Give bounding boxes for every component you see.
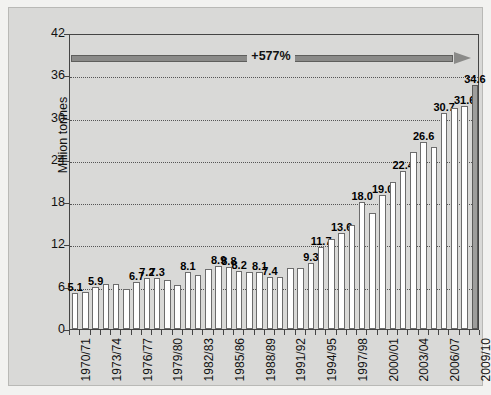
bar [72,293,78,329]
x-axis-tick-marks [69,330,479,336]
bar [410,152,416,329]
x-tick-label: 1979/80 [171,338,185,381]
x-tick-label: 2009/10 [479,338,491,381]
x-tick-mark [407,330,408,335]
x-tick-mark [141,330,142,335]
bar [236,271,242,329]
x-tick-mark [90,330,91,335]
x-tick-mark [336,330,337,335]
bar-value-label: 8.1 [175,260,201,272]
bar-value-label: 7.3 [144,266,170,278]
bar [451,108,457,329]
growth-annotation-label: +577% [71,49,471,63]
bar [338,233,344,329]
x-tick-mark [438,330,439,335]
y-tick-label: 30 [43,111,65,125]
x-tick-mark [295,330,296,335]
y-tick-label: 24 [43,153,65,167]
x-tick-mark [325,330,326,335]
x-tick-mark [110,330,111,335]
x-tick-label: 1991/92 [294,338,308,381]
x-tick-mark [346,330,347,335]
x-tick-mark [202,330,203,335]
x-tick-mark [305,330,306,335]
bar [379,195,385,329]
x-tick-mark [223,330,224,335]
x-tick-mark [120,330,121,335]
bar [472,85,478,329]
bar [461,106,467,329]
growth-annotation: +577% [71,52,471,65]
x-tick-mark [151,330,152,335]
bar [349,225,355,329]
bar [390,182,396,329]
x-tick-label: 1994/95 [325,338,339,381]
bar [92,287,98,329]
bar [133,282,139,329]
bar [308,263,314,329]
x-tick-mark [356,330,357,335]
bar [246,272,252,329]
x-tick-label: 1970/71 [79,338,93,381]
bar [185,272,191,329]
bar-value-label: 7.4 [257,265,283,277]
y-tick-label: 12 [43,237,65,251]
bar [144,278,150,329]
bar [318,247,324,329]
x-tick-label: 2006/07 [448,338,462,381]
x-tick-mark [397,330,398,335]
bar [359,202,365,329]
bar [154,278,160,329]
x-tick-label: 1988/89 [264,338,278,381]
bar [103,284,109,329]
x-tick-mark [79,330,80,335]
x-tick-mark [315,330,316,335]
bar [297,268,303,329]
x-tick-mark [213,330,214,335]
y-tick-label: 18 [43,195,65,209]
x-tick-mark [366,330,367,335]
bar [123,289,129,329]
y-tick-label: 42 [43,26,65,40]
chart-panel: Million tonnes 06121824303642 5.15.96.77… [8,7,483,386]
bar [195,275,201,329]
x-tick-label: 1985/86 [233,338,247,381]
x-axis-tick-labels: 1970/711973/741976/771979/801982/831985/… [69,338,479,395]
bar [174,285,180,329]
x-tick-mark [377,330,378,335]
plot-area: 5.15.96.77.27.38.18.98.88.28.17.49.311.7… [69,34,479,330]
x-tick-label: 1982/83 [202,338,216,381]
x-tick-label: 1997/98 [356,338,370,381]
x-tick-mark [131,330,132,335]
x-tick-mark [233,330,234,335]
bar [328,239,334,329]
x-tick-mark [274,330,275,335]
x-tick-mark [418,330,419,335]
bar [226,267,232,329]
x-tick-mark [448,330,449,335]
bar [369,213,375,329]
bar [256,272,262,329]
bar [82,292,88,329]
x-tick-mark [479,330,480,335]
x-tick-mark [459,330,460,335]
x-tick-mark [387,330,388,335]
bar [205,269,211,329]
y-axis-tick-labels: 06121824303642 [39,34,65,330]
x-tick-mark [243,330,244,335]
bar-series: 5.15.96.77.27.38.18.98.88.28.17.49.311.7… [70,35,478,329]
bar-value-label: 26.6 [411,130,437,142]
bar [113,284,119,329]
bar [441,113,447,329]
bar [215,266,221,329]
x-tick-mark [100,330,101,335]
bar [267,277,273,329]
bar [420,142,426,329]
bar [431,147,437,329]
x-tick-label: 1976/77 [141,338,155,381]
x-tick-mark [428,330,429,335]
bar [400,171,406,329]
growth-annotation-text: +577% [247,49,294,63]
y-tick-label: 0 [43,322,65,336]
x-tick-label: 1973/74 [110,338,124,381]
